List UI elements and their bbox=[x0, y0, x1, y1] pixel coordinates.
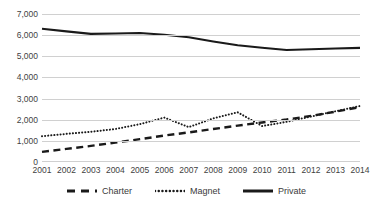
dotted-line-swatch bbox=[155, 186, 185, 196]
y-tick-label: 5,000 bbox=[0, 52, 38, 61]
legend-label: Magnet bbox=[190, 186, 220, 196]
x-tick-label: 2001 bbox=[33, 165, 52, 176]
gridline bbox=[42, 56, 360, 57]
gridline bbox=[42, 99, 360, 100]
series-line-private bbox=[42, 29, 360, 50]
plot-area bbox=[42, 14, 360, 162]
dashed-line-swatch bbox=[67, 186, 97, 196]
x-tick-label: 2007 bbox=[179, 165, 198, 176]
x-axis: 2001200220032004200520062007200820092010… bbox=[42, 165, 360, 177]
y-tick-label: 4,000 bbox=[0, 73, 38, 82]
chart-legend: CharterMagnetPrivate bbox=[0, 183, 373, 199]
legend-label: Private bbox=[278, 186, 306, 196]
x-tick-label: 2004 bbox=[106, 165, 125, 176]
gridline bbox=[42, 77, 360, 78]
x-tick-label: 2013 bbox=[326, 165, 345, 176]
legend-entry-private[interactable]: Private bbox=[243, 186, 306, 196]
y-axis: 7,0006,0005,0004,0003,0002,0001,0000 bbox=[0, 14, 38, 162]
y-tick-label: 2,000 bbox=[0, 115, 38, 124]
y-tick-label: 7,000 bbox=[0, 10, 38, 19]
gridline bbox=[42, 161, 360, 162]
x-tick-label: 2006 bbox=[155, 165, 174, 176]
legend-entry-charter[interactable]: Charter bbox=[67, 186, 132, 196]
y-tick-label: 6,000 bbox=[0, 31, 38, 40]
y-tick-label: 3,000 bbox=[0, 94, 38, 103]
gridline bbox=[42, 141, 360, 142]
x-tick-label: 2003 bbox=[81, 165, 100, 176]
y-tick-label: 1,000 bbox=[0, 136, 38, 145]
x-tick-label: 2010 bbox=[253, 165, 272, 176]
series-line-charter bbox=[42, 107, 360, 152]
x-tick-label: 2012 bbox=[302, 165, 321, 176]
x-tick-label: 2009 bbox=[228, 165, 247, 176]
legend-label: Charter bbox=[102, 186, 132, 196]
legend-entry-magnet[interactable]: Magnet bbox=[155, 186, 220, 196]
series-line-magnet bbox=[42, 106, 360, 136]
gridline bbox=[42, 35, 360, 36]
gridline bbox=[42, 120, 360, 121]
x-tick-label: 2005 bbox=[130, 165, 149, 176]
x-tick-label: 2008 bbox=[204, 165, 223, 176]
x-tick-label: 2014 bbox=[351, 165, 370, 176]
gridline bbox=[42, 14, 360, 15]
x-tick-label: 2002 bbox=[57, 165, 76, 176]
line-chart: 7,0006,0005,0004,0003,0002,0001,0000 200… bbox=[0, 0, 373, 205]
series-layer bbox=[42, 14, 360, 162]
solid-line-swatch bbox=[243, 186, 273, 196]
x-tick-label: 2011 bbox=[277, 165, 295, 176]
